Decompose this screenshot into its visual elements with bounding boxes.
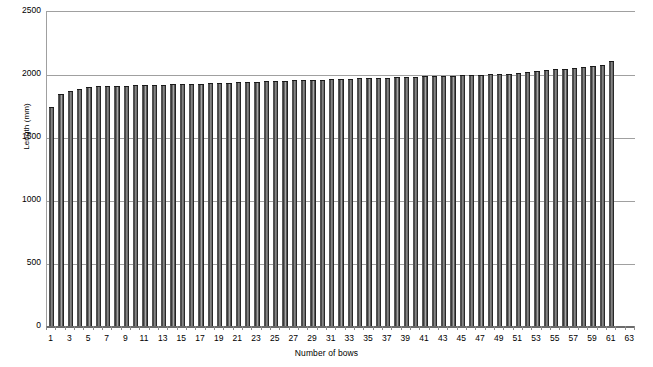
x-axis-tick bbox=[410, 326, 411, 330]
bar bbox=[544, 70, 549, 327]
bar bbox=[170, 84, 175, 327]
x-axis-tick bbox=[391, 326, 392, 330]
x-axis-tick bbox=[335, 326, 336, 330]
bar-series bbox=[47, 12, 635, 327]
x-axis-tick bbox=[317, 326, 318, 330]
y-axis-tick-label: 0 bbox=[7, 321, 41, 330]
plot-area bbox=[46, 11, 635, 327]
y-axis-tick-label: 500 bbox=[7, 258, 41, 267]
bar bbox=[58, 94, 63, 327]
bar bbox=[105, 86, 110, 327]
bar bbox=[301, 80, 306, 327]
bar bbox=[208, 83, 213, 327]
bar bbox=[404, 77, 409, 327]
bar bbox=[236, 82, 241, 327]
bar bbox=[217, 83, 222, 327]
bar bbox=[562, 69, 567, 327]
x-axis-ticks bbox=[46, 326, 634, 332]
x-axis-tick bbox=[83, 326, 84, 330]
bar bbox=[77, 89, 82, 327]
x-axis-tick bbox=[345, 326, 346, 330]
x-axis-tick bbox=[438, 326, 439, 330]
bar bbox=[96, 86, 101, 327]
x-axis-tick bbox=[457, 326, 458, 330]
x-axis-tick-labels: 1357911131517192123252729313335373941434… bbox=[46, 333, 634, 347]
bar bbox=[581, 67, 586, 327]
bar bbox=[329, 79, 334, 327]
bar bbox=[180, 84, 185, 327]
x-axis-tick bbox=[214, 326, 215, 330]
bar bbox=[320, 80, 325, 327]
x-axis-tick bbox=[55, 326, 56, 330]
x-axis-tick bbox=[233, 326, 234, 330]
bar bbox=[338, 79, 343, 327]
y-axis-tick-labels: 05001000150020002500 bbox=[0, 0, 41, 367]
x-axis-tick bbox=[130, 326, 131, 330]
bar-chart: Length (mm) 05001000150020002500 1357911… bbox=[0, 0, 653, 367]
x-axis-tick bbox=[597, 326, 598, 330]
y-axis-tick-label: 2500 bbox=[7, 6, 41, 15]
bar bbox=[292, 80, 297, 327]
bar bbox=[310, 80, 315, 327]
x-axis-tick bbox=[93, 326, 94, 330]
bar bbox=[422, 76, 427, 327]
x-axis-tick bbox=[102, 326, 103, 330]
bar bbox=[133, 85, 138, 327]
x-axis-tick bbox=[251, 326, 252, 330]
x-axis-tick bbox=[503, 326, 504, 330]
x-axis-tick bbox=[149, 326, 150, 330]
x-axis-tick bbox=[46, 326, 47, 330]
bar bbox=[189, 84, 194, 327]
x-axis-tick bbox=[363, 326, 364, 330]
bar bbox=[376, 78, 381, 327]
x-axis-tick bbox=[466, 326, 467, 330]
bar bbox=[161, 85, 166, 327]
x-axis-tick bbox=[522, 326, 523, 330]
bar bbox=[394, 77, 399, 327]
x-axis-tick bbox=[139, 326, 140, 330]
bar bbox=[282, 81, 287, 327]
x-axis-tick bbox=[494, 326, 495, 330]
bar bbox=[273, 81, 278, 327]
bar bbox=[525, 72, 530, 327]
x-axis-tick bbox=[578, 326, 579, 330]
x-axis-tick bbox=[279, 326, 280, 330]
x-axis-tick bbox=[531, 326, 532, 330]
x-axis-tick bbox=[195, 326, 196, 330]
x-axis-tick bbox=[559, 326, 560, 330]
bar bbox=[460, 75, 465, 327]
bar bbox=[348, 79, 353, 327]
x-axis-tick bbox=[177, 326, 178, 330]
bar bbox=[506, 74, 511, 327]
x-axis-tick bbox=[513, 326, 514, 330]
x-axis-tick bbox=[429, 326, 430, 330]
bar bbox=[534, 71, 539, 327]
x-axis-tick bbox=[475, 326, 476, 330]
x-axis-tick bbox=[74, 326, 75, 330]
bar bbox=[432, 76, 437, 327]
bar bbox=[516, 73, 521, 327]
bar bbox=[357, 78, 362, 327]
x-axis-tick bbox=[270, 326, 271, 330]
x-axis-tick bbox=[261, 326, 262, 330]
bar bbox=[572, 68, 577, 327]
bar bbox=[413, 77, 418, 327]
bar bbox=[385, 78, 390, 327]
bar bbox=[497, 74, 502, 327]
bar bbox=[254, 82, 259, 327]
bar bbox=[264, 81, 269, 327]
bar bbox=[600, 65, 605, 327]
x-axis-tick bbox=[569, 326, 570, 330]
y-axis-tick-label: 2000 bbox=[7, 69, 41, 78]
x-axis-tick bbox=[625, 326, 626, 330]
bar bbox=[152, 85, 157, 327]
x-axis-tick bbox=[298, 326, 299, 330]
x-axis-tick bbox=[447, 326, 448, 330]
x-axis-tick bbox=[158, 326, 159, 330]
x-axis-tick bbox=[634, 326, 635, 330]
bar bbox=[553, 69, 558, 327]
bar bbox=[198, 84, 203, 327]
x-axis-tick-label: 63 bbox=[617, 333, 641, 343]
x-axis-tick bbox=[541, 326, 542, 330]
y-axis-tick-label: 1500 bbox=[7, 132, 41, 141]
